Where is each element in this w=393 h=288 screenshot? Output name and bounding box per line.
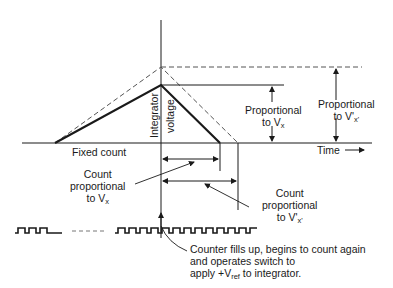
count-vxp-line3: to V'x'	[262, 211, 317, 227]
pulse-train-right	[115, 228, 257, 233]
counter-note-line2: and operates switch to	[190, 255, 366, 267]
prop-vx-sub: x	[281, 121, 285, 130]
prop-vxp-line1: Proportional	[318, 98, 375, 110]
counter-note-leader	[161, 226, 187, 251]
axis-label-voltage: voltage	[164, 99, 176, 133]
count-vxp-sub: x'	[297, 216, 302, 225]
count-vx-line2: proportional	[70, 180, 125, 192]
count-vx-line3: to Vx	[70, 192, 125, 208]
solid-ramp-vx	[55, 85, 220, 143]
prop-vx-line1: Proportional	[245, 104, 302, 116]
count-vx-sub: x	[105, 197, 109, 206]
counter-note-prefix: apply +V	[190, 267, 231, 279]
counter-note-line1: Counter fills up, begins to count again	[190, 243, 366, 255]
count-vxp-line1: Count	[262, 187, 317, 199]
counter-note-sub: ref	[231, 272, 240, 281]
prop-vx-line2: to Vx	[245, 116, 302, 132]
counter-note-line3: apply +Vref to integrator.	[190, 267, 366, 283]
count-vx-line1: Count	[70, 168, 125, 180]
fixed-count-label: Fixed count	[72, 146, 126, 158]
count-vxp-label: Count proportional to V'x'	[262, 187, 317, 227]
prop-vxp-line2: to V'x'	[318, 110, 375, 126]
count-vxp-leader	[205, 184, 249, 207]
prop-vxp-sub: x'	[354, 115, 359, 124]
time-label: Time	[317, 144, 340, 156]
prop-vx-prefix: to V	[262, 116, 281, 128]
counter-note: Counter fills up, begins to count again …	[190, 243, 366, 283]
pulse-train-left	[15, 228, 62, 233]
dashed-ramp-vx-prime	[55, 67, 238, 143]
counter-note-suffix: to integrator.	[240, 267, 301, 279]
prop-vxp-label: Proportional to V'x'	[318, 98, 375, 126]
prop-vxp-prefix: to V'	[333, 110, 354, 122]
count-vx-prefix: to V	[87, 192, 106, 204]
axis-label-integrator: Integrator	[148, 93, 160, 138]
count-vxp-prefix: to V'	[277, 211, 298, 223]
prop-vx-label: Proportional to Vx	[245, 104, 302, 132]
count-vxp-line2: proportional	[262, 199, 317, 211]
count-vx-label: Count proportional to Vx	[70, 168, 125, 208]
